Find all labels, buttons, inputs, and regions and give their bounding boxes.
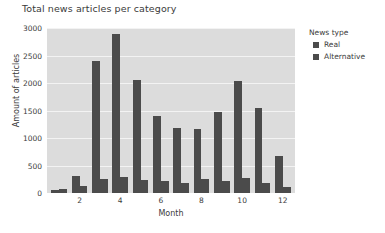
bar-real-month-1	[51, 190, 59, 193]
bar-alternative-month-1	[59, 189, 67, 193]
legend-title: News type	[309, 28, 383, 37]
bar-alternative-month-5	[141, 180, 149, 193]
y-axis-tick-labels: 050010001500200025003000	[0, 28, 45, 193]
x-axis-tick: 8	[199, 196, 204, 205]
x-axis-tick: 12	[278, 196, 288, 205]
bar-real-month-5	[133, 80, 141, 193]
x-axis-tick: 6	[158, 196, 163, 205]
bar-real-month-7	[173, 128, 181, 193]
legend-item-alternative[interactable]: Alternative	[313, 52, 383, 61]
page-title: Total news articles per category	[22, 3, 177, 14]
x-axis-tick: 10	[237, 196, 247, 205]
x-axis-label: Month	[47, 209, 295, 218]
bar-real-month-12	[275, 156, 283, 193]
bar-alternative-month-4	[120, 177, 128, 193]
bar-real-month-6	[153, 116, 161, 193]
bar-alternative-month-3	[100, 179, 108, 193]
bar-real-month-4	[112, 34, 120, 194]
plot-area	[47, 28, 295, 193]
x-axis-tick: 4	[118, 196, 123, 205]
y-axis-tick: 2500	[23, 51, 42, 60]
bar-alternative-month-7	[181, 183, 189, 193]
bar-real-month-10	[234, 81, 242, 193]
bar-real-month-2	[72, 176, 80, 193]
bar-real-month-11	[255, 108, 263, 193]
y-axis-tick: 1000	[23, 134, 42, 143]
legend: News type RealAlternative	[309, 28, 383, 64]
bar-real-month-8	[194, 129, 202, 193]
bar-real-month-3	[92, 61, 100, 193]
y-axis-tick: 1500	[23, 106, 42, 115]
bar-chart-figure: Total news articles per category Amount …	[0, 0, 385, 233]
bar-alternative-month-8	[201, 179, 209, 193]
bar-alternative-month-9	[222, 181, 230, 193]
bar-alternative-month-2	[80, 186, 88, 193]
bar-alternative-month-6	[161, 181, 169, 193]
x-axis-tick: 2	[77, 196, 82, 205]
y-axis-tick: 0	[37, 189, 42, 198]
bar-real-month-9	[214, 112, 222, 193]
bar-alternative-month-11	[262, 183, 270, 193]
legend-item-label: Alternative	[324, 52, 365, 61]
bar-alternative-month-12	[283, 187, 291, 193]
y-axis-tick: 500	[28, 161, 42, 170]
bar-alternative-month-10	[242, 178, 250, 193]
legend-swatch-icon	[313, 54, 319, 60]
legend-item-label: Real	[324, 40, 340, 49]
y-axis-tick: 3000	[23, 24, 42, 33]
y-axis-tick: 2000	[23, 79, 42, 88]
x-axis-tick-labels: 24681012	[47, 194, 295, 208]
bars-layer	[47, 28, 295, 193]
legend-swatch-icon	[313, 42, 319, 48]
legend-item-real[interactable]: Real	[313, 40, 383, 49]
